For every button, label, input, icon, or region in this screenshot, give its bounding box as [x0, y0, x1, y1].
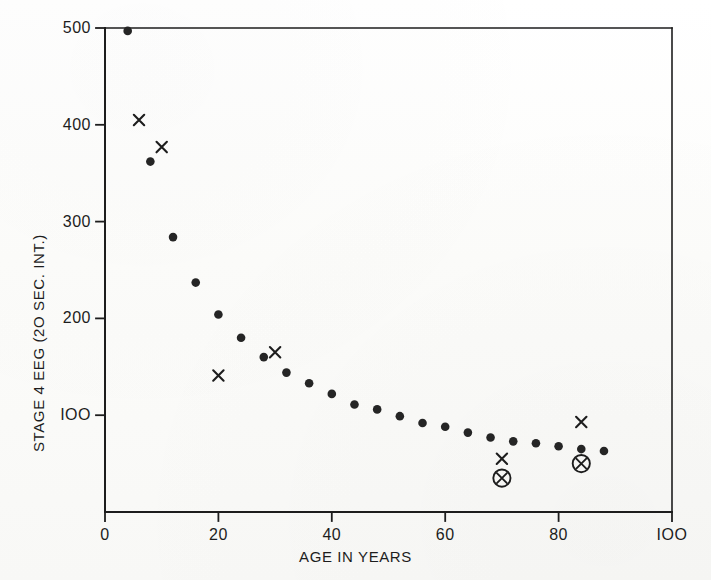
- data-point-dot: [123, 27, 132, 36]
- data-point-dot: [577, 445, 586, 454]
- y-tick-label: 200: [0, 309, 91, 327]
- data-point-dot: [509, 437, 518, 446]
- scatter-plot: [0, 0, 711, 580]
- data-point-dot: [169, 233, 178, 242]
- data-point-dot: [532, 439, 541, 448]
- x-tick-label: 60: [436, 526, 455, 544]
- data-point-cross: [213, 370, 223, 380]
- axis-frame: [105, 28, 672, 512]
- data-point-dot: [396, 412, 405, 421]
- series-cross: [134, 115, 587, 464]
- data-point-cross: [576, 417, 586, 427]
- data-point-cross: [270, 347, 280, 357]
- data-point-circled-cross: [573, 455, 590, 472]
- data-point-dot: [418, 419, 427, 428]
- data-point-circled-cross: [493, 470, 510, 487]
- data-point-dot: [259, 353, 268, 362]
- series-circled-cross: [493, 455, 590, 487]
- x-tick-label: IOO: [657, 526, 688, 544]
- data-point-dot: [373, 405, 382, 414]
- x-tick-label: 40: [322, 526, 341, 544]
- x-tick-label: 20: [209, 526, 228, 544]
- series-filled-circle: [123, 27, 608, 456]
- data-point-dot: [464, 428, 473, 437]
- data-point-dot: [441, 423, 450, 432]
- data-point-dot: [486, 433, 495, 442]
- data-point-dot: [600, 447, 609, 456]
- figure-root: AGE IN YEARS STAGE 4 EEG (2O SEC. INT.) …: [0, 0, 711, 580]
- data-point-dot: [214, 310, 223, 319]
- data-point-dot: [237, 333, 246, 342]
- data-point-dot: [328, 390, 337, 399]
- y-tick-label: 400: [0, 116, 91, 134]
- x-axis-title: AGE IN YEARS: [0, 548, 711, 565]
- axis-ticks: [96, 28, 672, 521]
- data-point-cross: [497, 454, 507, 464]
- cross-glyph: [576, 459, 586, 469]
- data-point-cross: [134, 115, 144, 125]
- data-point-dot: [554, 442, 563, 451]
- data-point-dot: [350, 400, 359, 409]
- x-tick-label: 0: [100, 526, 109, 544]
- data-point-dot: [146, 157, 155, 166]
- data-point-dot: [282, 368, 291, 377]
- data-point-dot: [305, 379, 314, 388]
- x-tick-label: 80: [549, 526, 568, 544]
- y-tick-label: IOO: [0, 406, 91, 424]
- y-tick-label: 300: [0, 213, 91, 231]
- data-point-dot: [191, 278, 200, 287]
- data-point-cross: [157, 142, 167, 152]
- y-tick-label: 500: [0, 19, 91, 37]
- cross-glyph: [497, 473, 507, 483]
